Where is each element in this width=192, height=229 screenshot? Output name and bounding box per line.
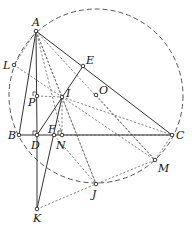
- point-B: [17, 133, 21, 137]
- point-I: [60, 95, 64, 99]
- label-I: I: [65, 87, 71, 100]
- point-labels: AEOLIPBDFNCMJK: [2, 16, 185, 225]
- segment-OM: [96, 95, 155, 160]
- point-C: [170, 133, 174, 137]
- label-E: E: [85, 54, 94, 67]
- point-E: [81, 64, 85, 68]
- point-D: [35, 133, 39, 137]
- label-K: K: [32, 212, 42, 225]
- point-P: [35, 94, 39, 98]
- segment-DE: [37, 66, 83, 135]
- segment-AD: [36, 31, 37, 135]
- segment-AB: [19, 31, 36, 135]
- point-J: [94, 182, 98, 186]
- point-L: [12, 63, 16, 67]
- segment-IC: [62, 97, 172, 135]
- label-C: C: [176, 129, 185, 142]
- segment-MJ: [96, 160, 155, 184]
- segment-AL: [14, 31, 36, 65]
- label-L: L: [2, 59, 10, 72]
- label-A: A: [31, 16, 40, 29]
- point-M: [153, 158, 157, 162]
- segment-LI: [14, 65, 62, 97]
- point-A: [34, 29, 38, 33]
- segment-CM: [155, 135, 172, 160]
- point-K: [35, 207, 39, 211]
- label-D: D: [30, 139, 40, 152]
- segment-AN: [36, 31, 62, 135]
- label-M: M: [157, 162, 170, 175]
- label-N: N: [55, 139, 66, 152]
- label-O: O: [99, 84, 108, 97]
- segment-IM: [62, 97, 155, 160]
- label-F: F: [47, 123, 56, 136]
- geometry-diagram: AEOLIPBDFNCMJK: [0, 0, 192, 229]
- label-J: J: [90, 188, 97, 201]
- label-B: B: [7, 129, 16, 142]
- segment-KJ: [37, 184, 96, 209]
- point-O: [94, 93, 98, 97]
- segment-PI: [37, 96, 62, 97]
- segment-AC: [36, 31, 172, 135]
- label-P: P: [27, 96, 36, 109]
- segment-IK: [37, 97, 62, 209]
- point-N: [60, 133, 64, 137]
